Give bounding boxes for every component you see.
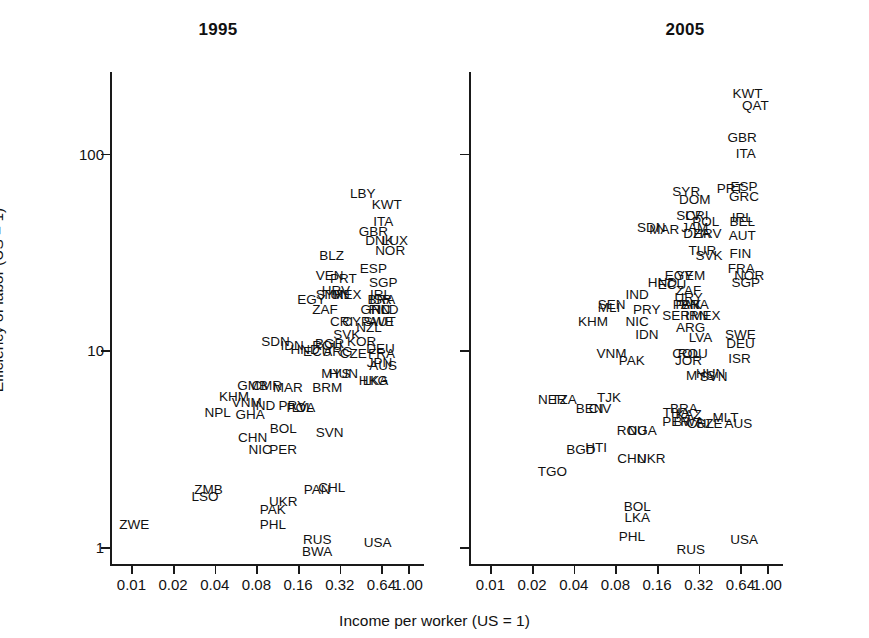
- data-point-label: HUN: [329, 367, 358, 381]
- x-tick-mark: [699, 566, 701, 574]
- y-tick-label: 1: [96, 538, 104, 555]
- data-point-label: PHL: [619, 531, 645, 545]
- data-point-label: BLZ: [319, 250, 344, 264]
- x-tick-label: 0.08: [242, 576, 271, 593]
- data-point-label: NIC: [248, 444, 271, 458]
- x-tick-mark: [256, 566, 258, 574]
- data-point-label: MAR: [649, 223, 679, 237]
- data-point-label: ISR: [728, 353, 751, 367]
- data-point-label: GBR: [728, 131, 757, 145]
- y-tick-mark: [460, 350, 469, 352]
- y-axis-line-2005: [469, 72, 471, 566]
- x-tick-mark: [532, 566, 534, 574]
- data-point-label: NOR: [375, 244, 405, 258]
- y-tick-label: 10: [87, 342, 104, 359]
- data-point-label: DEU: [726, 337, 755, 351]
- x-tick-mark: [740, 566, 742, 574]
- data-point-label: TGO: [538, 465, 567, 479]
- data-point-label: UKR: [637, 452, 666, 466]
- plot-area-2005: 0.010.020.040.080.160.320.641.00 KWTQATG…: [469, 72, 783, 566]
- x-tick-mark: [215, 566, 217, 574]
- x-tick-label: 0.64: [367, 576, 396, 593]
- data-point-label: AUS: [725, 418, 753, 432]
- data-point-label: ESP: [360, 262, 387, 276]
- x-tick-mark: [381, 566, 383, 574]
- y-tick-mark: [460, 547, 469, 549]
- data-point-label: HTI: [585, 441, 607, 455]
- data-point-label: AUS: [369, 359, 397, 373]
- x-tick-label: 0.32: [325, 576, 354, 593]
- data-point-label: NGA: [628, 424, 657, 438]
- data-point-label: PER: [269, 444, 297, 458]
- x-tick-mark: [340, 566, 342, 574]
- y-tick-label: 100: [79, 145, 104, 162]
- data-point-label: PAK: [619, 354, 645, 368]
- data-point-label: KHM: [578, 315, 608, 329]
- data-point-label: BOL: [270, 422, 297, 436]
- y-axis-line-1995: [110, 72, 112, 566]
- data-point-label: LKA: [363, 374, 389, 388]
- data-point-label: BWA: [302, 545, 332, 559]
- x-tick-mark: [615, 566, 617, 574]
- data-point-label: SVK: [696, 250, 723, 264]
- plot-area-1995: 110100 0.010.020.040.080.160.320.641.00 …: [110, 72, 424, 566]
- data-point-label: LVA: [292, 401, 316, 415]
- x-tick-label: 0.01: [117, 576, 146, 593]
- data-point-label: FIN: [730, 247, 752, 261]
- data-point-label: BEL: [729, 215, 755, 229]
- x-tick-label: 0.32: [684, 576, 713, 593]
- data-point-label: MAR: [273, 382, 303, 396]
- data-point-label: LSO: [191, 490, 218, 504]
- x-tick-mark: [490, 566, 492, 574]
- x-tick-label: 0.16: [642, 576, 671, 593]
- data-point-label: BRM: [312, 382, 342, 396]
- data-point-label: CHL: [318, 481, 345, 495]
- data-point-label: ZWE: [119, 518, 149, 532]
- data-point-label: PAK: [260, 503, 286, 517]
- data-point-label: RUS: [676, 543, 705, 557]
- x-tick-label: 0.02: [158, 576, 187, 593]
- data-point-label: HRV: [693, 227, 721, 241]
- x-tick-label: 1.00: [753, 576, 782, 593]
- y-tick-mark: [460, 154, 469, 156]
- data-point-label: TZA: [551, 393, 577, 407]
- x-axis-line-1995: [110, 564, 424, 566]
- figure-scatter-efficiency-of-labor: 1995 110100 0.010.020.040.080.160.320.64…: [0, 0, 869, 638]
- data-point-label: AUT: [729, 230, 756, 244]
- data-point-label: USA: [730, 534, 758, 548]
- panel-title-1995: 1995: [0, 20, 448, 40]
- x-tick-label: 0.04: [200, 576, 229, 593]
- data-point-label: IND: [626, 289, 649, 303]
- data-point-label: GRC: [729, 190, 759, 204]
- panel-1995: 1995 110100 0.010.020.040.080.160.320.64…: [0, 0, 460, 638]
- x-tick-label: 0.08: [601, 576, 630, 593]
- x-tick-mark: [767, 566, 769, 574]
- data-point-label: CIV: [589, 403, 612, 417]
- x-tick-label: 0.02: [517, 576, 546, 593]
- data-point-label: IDN: [635, 328, 658, 342]
- x-tick-mark: [657, 566, 659, 574]
- data-point-label: LVA: [689, 332, 713, 346]
- data-point-label: PHL: [260, 518, 286, 532]
- y-axis-label: Efficiency of labor (US = 1): [0, 135, 7, 465]
- data-point-label: SVN: [316, 426, 344, 440]
- data-point-label: ITA: [736, 147, 756, 161]
- data-point-label: USA: [364, 536, 392, 550]
- data-point-label: NPL: [205, 406, 231, 420]
- data-point-label: LKA: [624, 511, 650, 525]
- data-point-label: KWT: [372, 198, 402, 212]
- data-point-label: GHA: [235, 408, 264, 422]
- data-point-label: MLI: [598, 301, 621, 315]
- x-tick-mark: [131, 566, 133, 574]
- panel-2005: 2005 0.010.020.040.080.160.320.641.00 KW…: [409, 0, 869, 638]
- x-axis-line-2005: [469, 564, 783, 566]
- x-tick-label: 0.16: [283, 576, 312, 593]
- data-point-label: CZE: [340, 347, 367, 361]
- x-tick-mark: [574, 566, 576, 574]
- x-tick-mark: [298, 566, 300, 574]
- data-point-label: SGP: [732, 276, 761, 290]
- x-tick-mark: [173, 566, 175, 574]
- x-tick-label: 0.64: [726, 576, 755, 593]
- data-point-label: SVN: [700, 370, 728, 384]
- x-axis-label: Income per worker (US = 1): [0, 612, 869, 630]
